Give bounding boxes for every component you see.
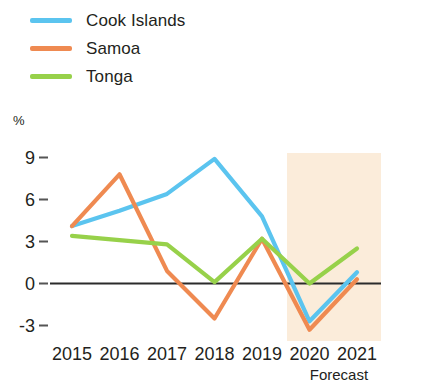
y-tick-3: 3 xyxy=(25,231,48,252)
forecast-caption: Forecast xyxy=(310,366,368,381)
y-tick-6: 6 xyxy=(25,189,48,210)
y-axis: 9630-3 xyxy=(0,0,48,381)
series-line-samoa xyxy=(72,174,357,329)
chart-container: Cook Islands Samoa Tonga % 9630-3 201520… xyxy=(0,0,430,381)
y-tick-label: 0 xyxy=(25,273,35,293)
x-tick-2016: 2016 xyxy=(99,344,139,365)
x-tick-2015: 2015 xyxy=(52,344,92,365)
x-tick-2017: 2017 xyxy=(147,344,187,365)
y-tick-label: -3 xyxy=(19,315,35,335)
y-tick-neg3: -3 xyxy=(19,315,48,336)
x-tick-2021: 2021 xyxy=(337,344,377,365)
x-tick-2020: 2020 xyxy=(289,344,329,365)
x-tick-2019: 2019 xyxy=(242,344,282,365)
y-tick-label: 3 xyxy=(25,231,35,251)
plot-area xyxy=(0,0,430,381)
y-tick-mark xyxy=(39,324,48,326)
y-tick-label: 6 xyxy=(25,189,35,209)
y-tick-mark xyxy=(39,156,48,158)
y-tick-mark xyxy=(39,282,48,284)
y-tick-mark xyxy=(39,240,48,242)
x-tick-2018: 2018 xyxy=(194,344,234,365)
y-tick-9: 9 xyxy=(25,147,48,168)
series-lines xyxy=(0,0,430,381)
y-tick-0: 0 xyxy=(25,273,48,294)
y-tick-mark xyxy=(39,198,48,200)
y-tick-label: 9 xyxy=(25,147,35,167)
series-line-tonga xyxy=(72,236,357,284)
